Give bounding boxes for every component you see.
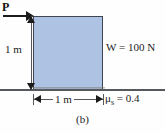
friction-value: = 0.4 [114, 92, 139, 104]
vertical-dimension-label: 1 m [5, 43, 22, 55]
block-body [33, 16, 103, 90]
horizontal-dimension-tick-right [103, 94, 104, 105]
horizontal-dimension-arrow-left-icon [34, 95, 41, 103]
weight-label: W = 100 N [106, 41, 155, 53]
force-label-p: P [2, 0, 9, 15]
vertical-dimension-arrow-bottom-icon [27, 83, 35, 90]
force-arrow-shaft [3, 15, 28, 17]
ground-line [0, 89, 165, 91]
figure-caption: (b) [0, 113, 165, 125]
horizontal-dimension-label: 1 m [53, 93, 74, 105]
free-body-diagram-figure: P 1 m 1 m W = 100 N μs = 0.4 (b) [0, 0, 165, 133]
vertical-dimension-arrow-top-icon [27, 16, 35, 23]
friction-coefficient-label: μs = 0.4 [105, 92, 140, 107]
vertical-dimension-line [31, 16, 32, 90]
horizontal-dimension-arrow-right-icon [96, 95, 103, 103]
